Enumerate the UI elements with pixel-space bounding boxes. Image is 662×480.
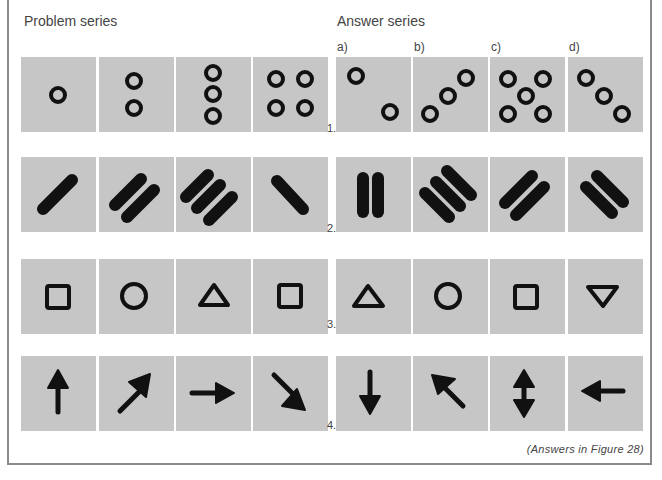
answer-2a-tile (336, 157, 411, 232)
problem-4-tile-4 (253, 356, 328, 431)
answer-label-b: b) (414, 40, 425, 54)
triangle-down-icon (568, 259, 643, 334)
one-bar-falling-icon (253, 157, 328, 232)
answer-2d-tile (568, 157, 643, 232)
one-circle-icon (21, 57, 96, 132)
arrow-right-icon (176, 356, 251, 431)
problem-3-tile-4 (253, 259, 328, 334)
problem-1-tile-1 (21, 57, 96, 132)
two-rising-bars-icon (490, 157, 565, 232)
triangle-up-icon (176, 259, 251, 334)
two-circles-icon (99, 57, 174, 132)
answer-1d-tile (568, 57, 643, 132)
problem-4-tile-1 (21, 356, 96, 431)
answer-4d-tile (568, 356, 643, 431)
answer-4a-tile (336, 356, 411, 431)
answer-3b-tile (413, 259, 488, 334)
answer-1b-tile (413, 57, 488, 132)
problem-2-tile-1 (21, 157, 96, 232)
two-bars-icon (99, 157, 174, 232)
row-number-3: 3. (327, 318, 336, 330)
five-circles-icon (490, 57, 565, 132)
answer-2c-tile (490, 157, 565, 232)
problem-1-tile-2 (99, 57, 174, 132)
problem-1-tile-3 (176, 57, 251, 132)
answer-3c-tile (490, 259, 565, 334)
answers-footnote: (Answers in Figure 28) (527, 443, 644, 455)
arrow-up-right-icon (99, 356, 174, 431)
three-circles-rising-icon (413, 57, 488, 132)
square-icon (490, 259, 565, 334)
answer-series-heading: Answer series (337, 13, 425, 29)
answer-2b-tile (413, 157, 488, 232)
circle-icon (413, 259, 488, 334)
row-number-2: 2. (327, 222, 336, 234)
answer-4c-tile (490, 356, 565, 431)
problem-4-tile-2 (99, 356, 174, 431)
square-icon (21, 259, 96, 334)
four-circles-icon (253, 57, 328, 132)
problem-3-tile-3 (176, 259, 251, 334)
two-vertical-bars-icon (336, 157, 411, 232)
three-circles-icon (176, 57, 251, 132)
problem-1-tile-4 (253, 57, 328, 132)
three-circles-falling-icon (568, 57, 643, 132)
problem-4-tile-3 (176, 356, 251, 431)
three-bars-icon (176, 157, 251, 232)
two-circles-diagonal-icon (336, 57, 411, 132)
arrow-up-left-icon (413, 356, 488, 431)
problem-3-tile-1 (21, 259, 96, 334)
three-falling-bars-icon (413, 157, 488, 232)
problem-3-tile-2 (99, 259, 174, 334)
row-number-1: 1. (327, 122, 336, 134)
arrow-down-right-icon (253, 356, 328, 431)
problem-2-tile-4 (253, 157, 328, 232)
circle-icon (99, 259, 174, 334)
problem-series-heading: Problem series (24, 13, 117, 29)
answer-label-c: c) (491, 40, 501, 54)
answer-4b-tile (413, 356, 488, 431)
arrow-up-icon (21, 356, 96, 431)
triangle-up-icon (336, 259, 411, 334)
answer-label-a: a) (337, 40, 348, 54)
answer-label-d: d) (569, 40, 580, 54)
answer-3d-tile (568, 259, 643, 334)
problem-2-tile-2 (99, 157, 174, 232)
answer-1a-tile (336, 57, 411, 132)
arrow-left-icon (568, 356, 643, 431)
two-falling-bars-icon (568, 157, 643, 232)
square-icon (253, 259, 328, 334)
problem-2-tile-3 (176, 157, 251, 232)
arrow-up-down-icon (490, 356, 565, 431)
arrow-down-icon (336, 356, 411, 431)
answer-1c-tile (490, 57, 565, 132)
row-number-4: 4. (327, 419, 336, 431)
one-bar-icon (21, 157, 96, 232)
answer-3a-tile (336, 259, 411, 334)
